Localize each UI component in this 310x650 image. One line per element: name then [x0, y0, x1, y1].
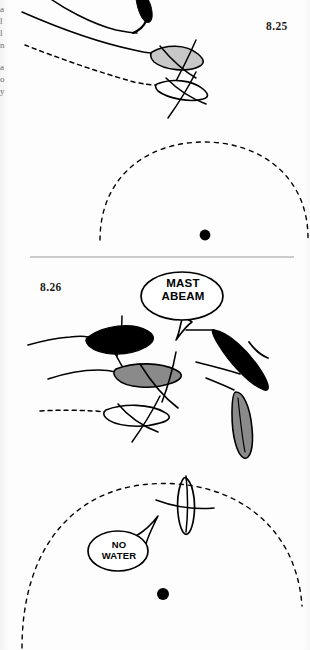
- boat-black-right: [186, 330, 268, 390]
- figure-number-8-26: 8.26: [40, 281, 62, 293]
- boat-white-bottom: [156, 476, 214, 534]
- track-solid-middle: [48, 370, 116, 379]
- margin-fragment: y: [0, 86, 9, 97]
- page-canvas: 8.25 8.26 MAST ABEAM NO WATER a l l n a …: [0, 0, 310, 650]
- track-solid-upper: [28, 336, 88, 345]
- margin-fragment: l: [0, 16, 9, 27]
- boat-gray-right: [206, 378, 253, 458]
- margin-fragment: a: [0, 4, 9, 15]
- boat-white-left: [104, 396, 169, 442]
- figure-8-26-artwork: [0, 0, 310, 650]
- margin-fragment: o: [0, 74, 9, 85]
- callout-no-water: [88, 516, 158, 571]
- margin-fragment: a: [0, 62, 9, 73]
- margin-fragment: n: [0, 40, 9, 51]
- track-dashed-lower: [40, 410, 106, 412]
- figure-number-8-25: 8.25: [266, 20, 288, 32]
- zone-arc: [22, 483, 302, 648]
- mark-buoy: [157, 588, 169, 600]
- boat-gray-middle: [114, 352, 181, 408]
- margin-fragment: l: [0, 28, 9, 39]
